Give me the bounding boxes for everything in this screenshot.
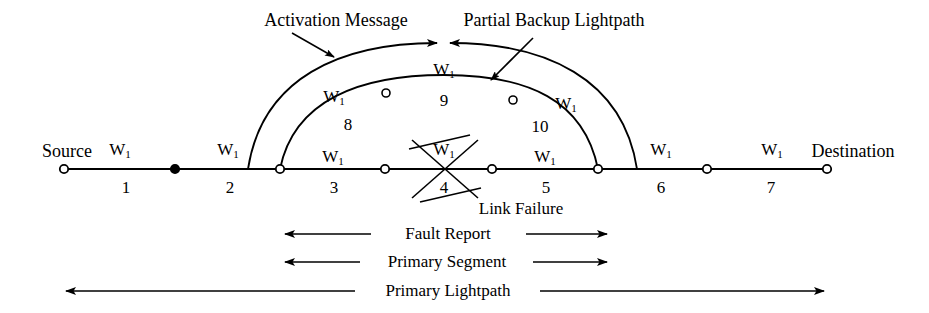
link-number-6: 6 <box>657 179 666 196</box>
link-number-1: 1 <box>122 179 131 196</box>
backup-link-number-9: 9 <box>440 92 449 109</box>
source-label: Source <box>42 142 92 160</box>
w-sub-2: 1 <box>233 148 239 160</box>
w-sub-6: 1 <box>666 148 672 160</box>
node-a <box>171 165 179 173</box>
link-failure-label: Link Failure <box>479 200 564 217</box>
w-label-link-1: W1 <box>109 141 131 158</box>
partial-backup-lightpath-pointer <box>491 38 533 80</box>
w-label-backup-10: W1 <box>555 95 577 112</box>
w-sub-9: 1 <box>449 68 455 80</box>
w-label-link-2: W1 <box>217 141 239 158</box>
backup-node-group <box>382 89 517 104</box>
fault-report-label: Fault Report <box>398 225 497 242</box>
link-number-2: 2 <box>226 179 235 196</box>
backup-link-number-8: 8 <box>344 116 353 133</box>
primary-segment-label: Primary Segment <box>381 253 514 270</box>
w-sub-5: 1 <box>550 155 556 167</box>
partial-backup-lightpath-label: Partial Backup Lightpath <box>464 11 645 29</box>
w-sub-8: 1 <box>339 95 345 107</box>
w-label-link-3: W1 <box>322 148 344 165</box>
link-number-7: 7 <box>767 179 776 196</box>
w-sub-4: 1 <box>449 148 455 160</box>
backup-node-2 <box>509 96 517 104</box>
w-sub-10: 1 <box>571 102 577 114</box>
node-f <box>703 165 711 173</box>
node-b <box>276 165 284 173</box>
w-sub-7: 1 <box>777 148 783 160</box>
activation-message-label: Activation Message <box>264 11 407 29</box>
destination-label: Destination <box>812 142 895 160</box>
network-diagram: Source Destination W1 W1 W1 W1 W1 W1 W1 … <box>0 0 929 313</box>
link-number-3: 3 <box>330 179 339 196</box>
w-label-backup-9: W1 <box>433 61 455 78</box>
node-c <box>381 165 389 173</box>
primary-lightpath-label: Primary Lightpath <box>378 282 517 299</box>
node-e <box>594 165 602 173</box>
link-number-5: 5 <box>542 179 551 196</box>
node-d <box>488 165 496 173</box>
activation-message-pointer <box>292 33 334 57</box>
link-number-4: 4 <box>440 179 449 196</box>
destination-node <box>823 165 831 173</box>
w-label-link-6: W1 <box>650 141 672 158</box>
w-label-link-7: W1 <box>761 141 783 158</box>
w-label-backup-8: W1 <box>323 88 345 105</box>
w-sub-3: 1 <box>338 155 344 167</box>
w-sub-1: 1 <box>125 148 131 160</box>
backup-node-1 <box>382 89 390 97</box>
w-label-link-5: W1 <box>534 148 556 165</box>
backup-link-number-10: 10 <box>532 118 549 135</box>
w-label-link-4: W1 <box>433 141 455 158</box>
source-node <box>60 165 68 173</box>
